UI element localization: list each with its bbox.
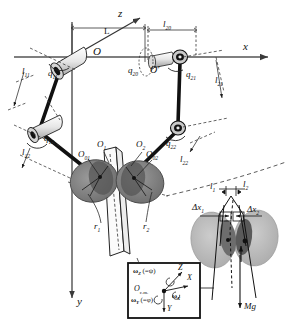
figure-canvas: z x y L O O′ l20 l11 q11 l12 q12 q20 q21… — [0, 0, 289, 327]
l22-label: l22 — [180, 155, 188, 166]
omega-y-label: ωY (=φ) — [131, 297, 153, 306]
inset-axis-X-label: X — [187, 274, 192, 282]
axis-x-label: x — [243, 41, 248, 52]
O01-label: O01 — [78, 150, 90, 161]
l21-label: l21 — [215, 76, 223, 87]
q22-label: q22 — [166, 139, 176, 150]
Mg-force-arrow — [240, 246, 241, 308]
Mg-label: Mg — [244, 302, 256, 311]
r2-label: r2 — [143, 222, 149, 233]
delta-x2-label: Δx2 — [247, 205, 259, 216]
l20-label: l20 — [163, 20, 171, 31]
axis-y-label: y — [77, 296, 82, 307]
q12-label: q12 — [44, 134, 54, 145]
delta-x1-label: Δx1 — [192, 203, 204, 214]
origin-O-label: O — [93, 46, 101, 57]
detail-wings — [187, 207, 281, 271]
l11-label: l11 — [22, 67, 30, 78]
axis-z-label: z — [118, 8, 122, 19]
right-shoulder-joint — [173, 50, 188, 64]
l2-label: l2 — [243, 180, 248, 191]
omega-z-label: ωZ (=ψ) — [133, 268, 156, 277]
inset-axis-Z-label: Z — [178, 264, 182, 272]
O2-label: O2 — [136, 140, 145, 151]
right-elbow-joint — [171, 121, 186, 135]
q20-label: q20 — [128, 66, 138, 77]
origin-O-prime-label: O′ — [150, 65, 159, 75]
inset-axis-Y-label: Y — [167, 305, 171, 313]
O1-label: O1 — [97, 140, 106, 151]
cm-label: Oc.m. — [134, 285, 148, 296]
detail-top-brackets — [219, 186, 245, 196]
omega-x-label: ωX — [172, 293, 180, 302]
l1-label: l1 — [210, 182, 215, 193]
l12-label: l12 — [22, 148, 30, 159]
r1-label: r1 — [94, 222, 100, 233]
q21-label: q21 — [186, 70, 196, 81]
O02-label: O02 — [146, 150, 158, 161]
q11-label: q11 — [48, 69, 58, 80]
length-L-label: L — [104, 27, 110, 36]
